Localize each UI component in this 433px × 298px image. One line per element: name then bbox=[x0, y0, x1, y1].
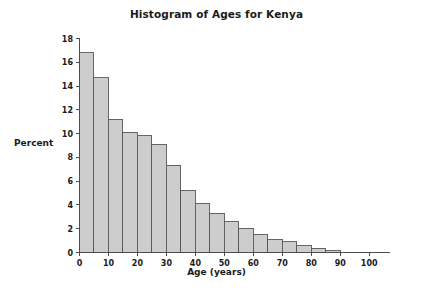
x-tick-label: 50 bbox=[219, 259, 231, 268]
histogram-bar bbox=[282, 242, 296, 253]
x-tick-label: 80 bbox=[306, 259, 318, 268]
histogram-bar bbox=[123, 132, 137, 252]
x-tick-label: 90 bbox=[335, 259, 347, 268]
y-tick-label: 16 bbox=[62, 58, 74, 67]
x-tick-label: 40 bbox=[190, 259, 202, 268]
y-axis-ticks: 024681012141618 bbox=[62, 35, 80, 258]
x-axis-ticks: 0102030405060708090100 bbox=[77, 253, 378, 268]
histogram-bar bbox=[195, 203, 209, 252]
histogram-bar bbox=[137, 136, 151, 253]
y-tick-label: 18 bbox=[62, 35, 74, 44]
histogram-bar bbox=[268, 239, 282, 252]
bars-group bbox=[80, 53, 341, 253]
y-tick-label: 8 bbox=[67, 153, 73, 162]
histogram-bar bbox=[224, 222, 238, 253]
histogram-bar bbox=[94, 78, 108, 253]
plot-area: 024681012141618 0102030405060708090100 bbox=[0, 0, 433, 298]
y-tick-label: 2 bbox=[67, 225, 73, 234]
histogram-bar bbox=[152, 144, 166, 252]
x-tick-label: 10 bbox=[103, 259, 115, 268]
histogram-bar bbox=[210, 213, 224, 252]
y-tick-label: 6 bbox=[67, 177, 73, 186]
histogram-chart: Histogram of Ages for Kenya Percent Age … bbox=[0, 0, 433, 298]
histogram-bar bbox=[311, 248, 325, 252]
x-tick-label: 60 bbox=[248, 259, 260, 268]
y-tick-label: 14 bbox=[62, 82, 74, 91]
y-tick-label: 4 bbox=[67, 201, 73, 210]
histogram-bar bbox=[253, 235, 267, 253]
histogram-bar bbox=[108, 119, 122, 252]
histogram-bar bbox=[181, 191, 195, 253]
y-tick-label: 10 bbox=[62, 130, 74, 139]
histogram-bar bbox=[166, 165, 180, 252]
y-tick-label: 0 bbox=[67, 249, 73, 258]
histogram-bar bbox=[297, 246, 311, 253]
x-tick-label: 30 bbox=[161, 259, 173, 268]
x-tick-label: 0 bbox=[77, 259, 83, 268]
x-tick-label: 100 bbox=[361, 259, 378, 268]
y-tick-label: 12 bbox=[62, 106, 73, 115]
histogram-bar bbox=[80, 53, 94, 253]
histogram-bar bbox=[239, 228, 253, 252]
x-tick-label: 70 bbox=[277, 259, 289, 268]
x-tick-label: 20 bbox=[132, 259, 144, 268]
